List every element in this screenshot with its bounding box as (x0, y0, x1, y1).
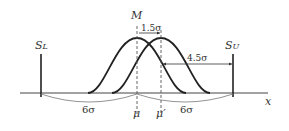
mu-label: μ (133, 108, 140, 119)
capability-diagram: M SL SU 1.5σ 4.5σ 6σ 6σ μ μ′ x (0, 0, 289, 131)
mean-marker-label: M (131, 10, 142, 21)
upper-spec-label: SU (225, 40, 239, 51)
upper-gap-label: 4.5σ (187, 54, 207, 63)
right-span-label: 6σ (180, 105, 193, 115)
right-span-brace (137, 94, 233, 102)
diagram-canvas (0, 0, 289, 131)
shift-label: 1.5σ (141, 24, 161, 33)
mu-prime-label: μ′ (156, 108, 166, 119)
left-span-label: 6σ (82, 105, 95, 115)
left-span-brace (41, 94, 137, 102)
x-axis-label: x (265, 96, 271, 107)
lower-spec-label: SL (35, 40, 48, 51)
